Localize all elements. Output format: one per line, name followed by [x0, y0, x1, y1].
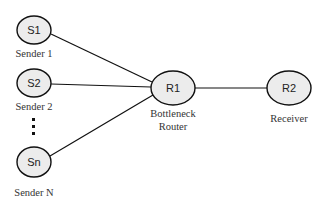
node-caption: Sender N [14, 187, 54, 198]
node-caption-line-2: Router [159, 121, 188, 132]
network-diagram: S1 Sender 1 S2 Sender 2 Sn Sender N R1 B… [0, 0, 327, 209]
edge-s1-r1 [51, 34, 152, 82]
node-caption: Sender 1 [15, 48, 52, 59]
vertical-ellipsis-icon [32, 118, 35, 135]
node-caption-line-1: Bottleneck [150, 108, 196, 119]
node-id-label: S2 [27, 77, 40, 89]
node-sender-1: S1 Sender 1 [15, 16, 52, 59]
node-id-label: R2 [282, 82, 296, 94]
node-id-label: S1 [27, 24, 40, 36]
node-caption: Sender 2 [15, 101, 52, 112]
node-sender-n: Sn Sender N [14, 147, 54, 198]
node-id-label: Sn [27, 156, 40, 168]
edge-s2-r1 [51, 84, 151, 87]
node-receiver: R2 Receiver [267, 71, 311, 124]
node-bottleneck-router: R1 Bottleneck Router [150, 71, 196, 132]
node-id-label: R1 [166, 82, 180, 94]
node-caption: Receiver [270, 113, 308, 124]
edge-sn-r1 [50, 95, 153, 156]
node-sender-2: S2 Sender 2 [15, 69, 52, 112]
